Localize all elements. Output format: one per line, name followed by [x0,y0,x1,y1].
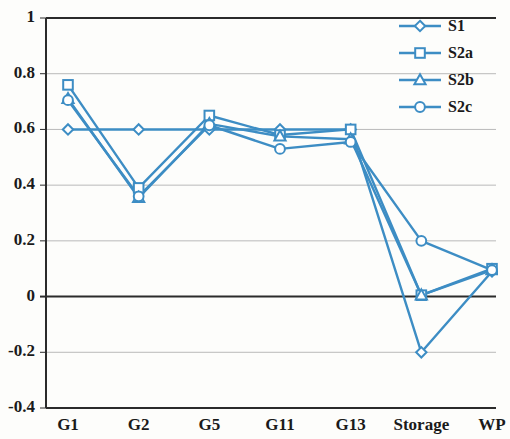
x-tick-label-wp: WP [447,415,510,435]
data-point-s2c-g5 [204,120,214,130]
data-point-s1-g2 [133,124,143,134]
data-point-s2c-g13 [346,137,356,147]
legend-item-s2b: S2b [398,70,474,90]
y-tick-label: -0.2 [0,341,35,361]
circle-marker [398,97,442,117]
y-tick-label: 0 [0,286,35,306]
data-point-s1-g1 [63,124,73,134]
legend-label: S2c [448,98,472,116]
y-tick-label: 0.6 [0,118,35,138]
legend-item-s1: S1 [398,16,465,36]
square-marker [398,43,442,63]
diamond-marker [398,16,442,36]
legend-item-s2c: S2c [398,97,472,117]
y-tick-label: 0.8 [0,63,35,83]
data-point-s2c-wp [487,265,497,275]
data-point-s2c-storage [416,236,426,246]
y-tick-label: -0.4 [0,397,35,417]
legend-label: S1 [448,17,465,35]
data-point-s2c-g2 [134,191,144,201]
triangle-marker [398,70,442,90]
data-point-s2c-g1 [63,95,73,105]
data-point-s2a-g1 [63,80,73,90]
legend-label: S2a [448,44,473,62]
y-tick-label: 0.4 [0,174,35,194]
data-point-s2c-g11 [275,144,285,154]
y-tick-label: 1 [0,7,35,27]
legend-item-s2a: S2a [398,43,473,63]
y-tick-label: 0.2 [0,230,35,250]
legend-label: S2b [448,71,474,89]
